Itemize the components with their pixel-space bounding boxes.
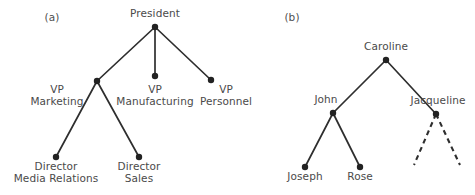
node-label-vp-personnel: VP Personnel <box>200 84 252 107</box>
node-dot-vp-marketing[interactable] <box>94 78 100 84</box>
node-dot-president[interactable] <box>152 24 158 30</box>
panel-label-a: (a) <box>45 12 60 24</box>
node-label-vp-marketing: VP Marketing <box>30 84 83 107</box>
node-dot-caroline[interactable] <box>383 57 389 63</box>
node-label-dir-media: Director Media Relations <box>14 161 99 184</box>
node-dot-vp-manufacturing[interactable] <box>152 73 158 79</box>
node-dot-vp-personnel[interactable] <box>208 77 214 83</box>
node-label-joseph: Joseph <box>287 171 322 183</box>
node-dot-jacqueline[interactable] <box>433 111 439 117</box>
edge-president-to-vp-marketing <box>97 27 155 81</box>
node-label-rose: Rose <box>347 171 373 183</box>
edge-john-to-rose <box>333 113 360 167</box>
dashed-edge-jacqueline-2 <box>436 114 460 165</box>
edge-john-to-joseph <box>305 113 333 167</box>
figure-root: PresidentVP MarketingVP ManufacturingVP … <box>0 0 475 195</box>
node-label-president: President <box>130 8 180 20</box>
node-dot-john[interactable] <box>330 110 336 116</box>
edge-president-to-vp-personnel <box>155 27 211 80</box>
node-label-dir-sales: Director Sales <box>118 161 161 184</box>
dashed-edge-jacqueline-1 <box>414 114 436 165</box>
panel-label-b: (b) <box>284 12 299 24</box>
node-label-vp-manufacturing: VP Manufacturing <box>116 84 193 107</box>
node-label-jacqueline: Jacqueline <box>410 95 465 107</box>
edge-caroline-to-john <box>333 60 386 113</box>
node-label-john: John <box>314 94 337 106</box>
node-label-caroline: Caroline <box>364 41 408 53</box>
